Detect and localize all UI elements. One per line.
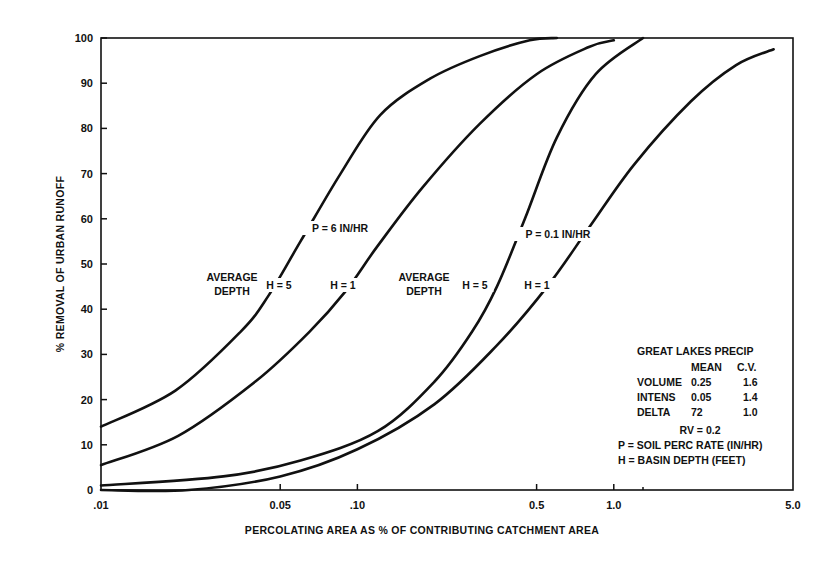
- y-tick-label: 40: [81, 303, 93, 315]
- legend-col-mean: MEAN: [691, 361, 722, 373]
- legend-row-delta-mean: 72: [691, 406, 703, 418]
- x-tick-label: 0.05: [270, 499, 291, 511]
- y-tick-label: 20: [81, 394, 93, 406]
- legend-note-h: H = BASIN DEPTH (FEET): [618, 454, 745, 466]
- legend-box: GREAT LAKES PRECIP MEAN C.V. VOLUME 0.25…: [618, 345, 762, 466]
- curve-annotation: H = 5: [462, 279, 488, 291]
- curve-annotation: P = 6 IN/HR: [312, 222, 369, 234]
- y-tick-label: 50: [81, 258, 93, 270]
- x-tick-label: 0.5: [529, 499, 544, 511]
- legend-row-delta-cv: 1.0: [743, 406, 758, 418]
- x-axis-title: PERCOLATING AREA AS % OF CONTRIBUTING CA…: [245, 524, 599, 536]
- legend-note-rv: RV = 0.2: [680, 424, 721, 436]
- y-tick-label: 90: [81, 77, 93, 89]
- legend-row-volume-cv: 1.6: [743, 376, 758, 388]
- legend-row-intens-label: INTENS: [637, 391, 676, 403]
- y-axis-title: % REMOVAL OF URBAN RUNOFF: [54, 176, 66, 353]
- legend-col-cv: C.V.: [737, 361, 757, 373]
- y-tick-label: 30: [81, 348, 93, 360]
- curve-annotation: DEPTH: [214, 285, 250, 297]
- curve-annotation: H = 1: [524, 279, 550, 291]
- y-tick-label: 0: [87, 484, 93, 496]
- legend-row-intens-cv: 1.4: [743, 391, 758, 403]
- y-tick-label: 60: [81, 213, 93, 225]
- plot-frame: [101, 38, 793, 490]
- annotations: P = 6 IN/HRAVERAGEDEPTHH = 5H = 1P = 0.1…: [206, 221, 602, 298]
- x-tick-label: .01: [93, 499, 108, 511]
- y-tick-label: 70: [81, 168, 93, 180]
- legend-row-intens-mean: 0.05: [691, 391, 712, 403]
- x-tick-label: .10: [350, 499, 365, 511]
- x-tick-label: 1.0: [606, 499, 621, 511]
- legend-row-volume-label: VOLUME: [637, 376, 682, 388]
- x-tick-label: 5.0: [785, 499, 800, 511]
- curve-annotation: AVERAGE: [398, 271, 449, 283]
- y-tick-label: 10: [81, 439, 93, 451]
- curve-annotation: DEPTH: [406, 285, 442, 297]
- curves: [101, 38, 774, 491]
- removal-vs-percolating-area-chart: 0102030405060708090100 .010.05.100.51.05…: [0, 0, 839, 568]
- curve-annotation: P = 0.1 IN/HR: [526, 228, 591, 240]
- legend-title: GREAT LAKES PRECIP: [637, 345, 753, 357]
- legend-row-volume-mean: 0.25: [691, 376, 712, 388]
- curve-annotation: H = 1: [330, 279, 356, 291]
- y-tick-label: 100: [75, 32, 93, 44]
- curve-annotation: H = 5: [266, 279, 292, 291]
- y-tick-label: 80: [81, 122, 93, 134]
- legend-row-delta-label: DELTA: [637, 406, 671, 418]
- curve-series-1: [101, 40, 614, 465]
- legend-note-p: P = SOIL PERC RATE (IN/HR): [618, 439, 762, 451]
- curve-annotation: AVERAGE: [206, 271, 257, 283]
- curve-series-2: [101, 38, 643, 486]
